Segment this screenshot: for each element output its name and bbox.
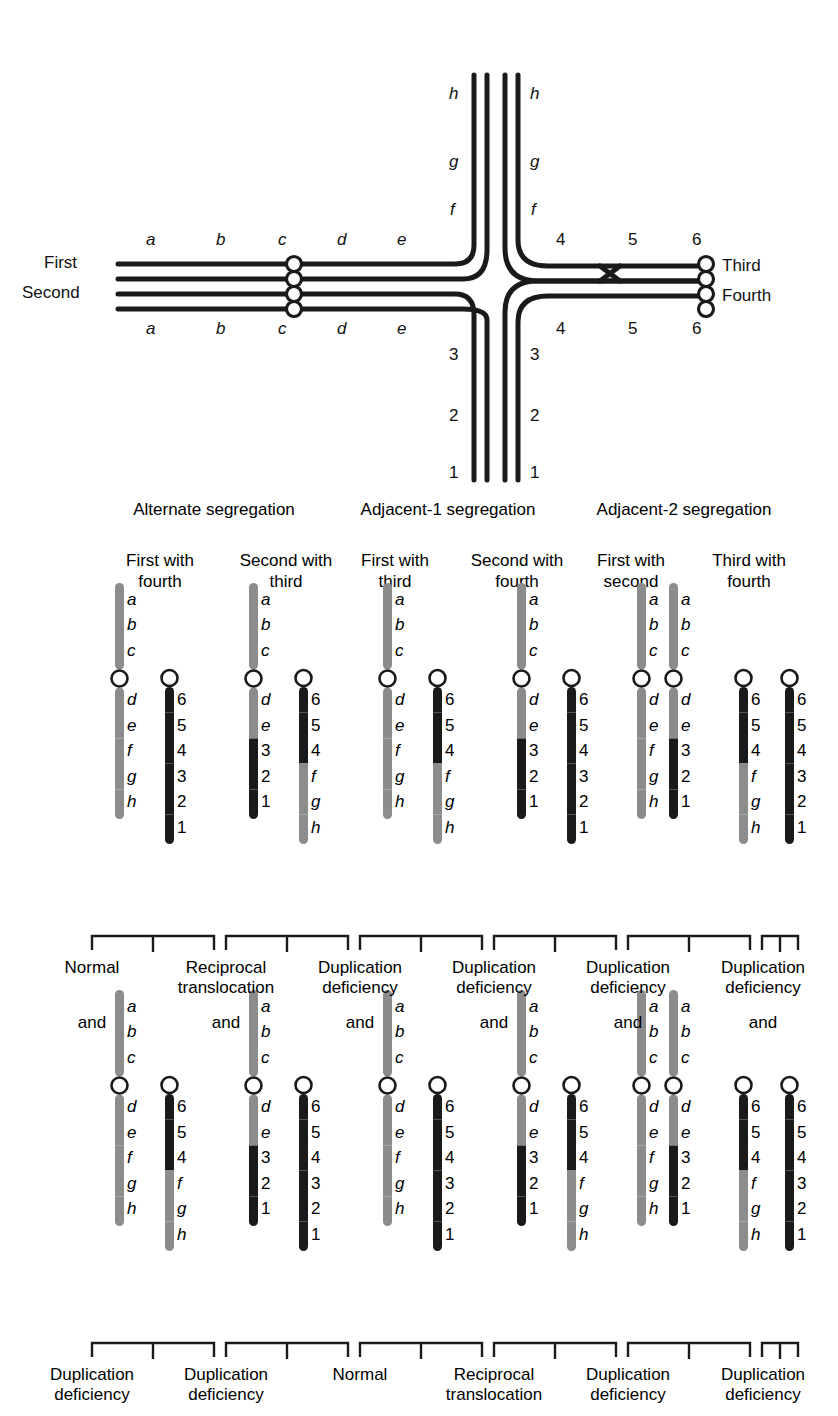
segment-label-row2-col1-0-q0: d <box>261 1098 270 1115</box>
segment-label-row2-col2-1-q3: 3 <box>445 1175 454 1192</box>
segment-label-row1-col1-0-p2: c <box>261 642 270 659</box>
outcome-row1-1-line1: Reciprocal <box>166 958 286 978</box>
cross-number-bottom-6: 6 <box>692 319 701 338</box>
segment-label-row1-col0-0-q4: h <box>127 793 136 810</box>
segment-label-row1-col0-1-q5: 1 <box>177 819 186 836</box>
cross-label-second: Second <box>22 283 80 302</box>
segment-label-row1-col3-0-q2: 3 <box>529 742 538 759</box>
segment-label-row2-col1-0-q3: 2 <box>261 1175 270 1192</box>
segment-label-row2-col4-0-q1: e <box>649 1124 658 1141</box>
segment-label-row1-col5-1-q5: 1 <box>797 819 806 836</box>
segment-label-row1-col4-0-p1: b <box>649 616 658 633</box>
segment-label-row2-col5-0-q1: 5 <box>751 1124 760 1141</box>
segment-label-row1-col1-1-q2: 4 <box>311 742 320 759</box>
segment-label-row2-col5-1-q2: 4 <box>797 1149 806 1166</box>
cross-number-down-left-1: 1 <box>449 463 458 482</box>
cross-letter-bottom-d: d <box>337 319 346 338</box>
segment-label-row1-col2-0-p2: c <box>395 642 404 659</box>
cross-label-first: First <box>44 253 77 272</box>
segment-label-row1-col1-1-q3: f <box>311 768 316 785</box>
segment-label-row2-col2-1-q2: 4 <box>445 1149 454 1166</box>
segment-label-row1-col3-0-q0: d <box>529 691 538 708</box>
outcome-row1-2-line1: Duplication <box>300 958 420 978</box>
telomere-fourth-sister <box>699 302 714 317</box>
section-title-alternate: Alternate segregation <box>96 500 332 520</box>
outcome-row2-0-line2: deficiency <box>32 1385 152 1405</box>
segment-label-row2-col0-0-p2: c <box>127 1049 136 1066</box>
segment-label-row2-col2-0-p2: c <box>395 1049 404 1066</box>
strand-third-sister <box>505 75 700 281</box>
segment-label-row2-col2-1-q0: 6 <box>445 1098 454 1115</box>
segment-label-row1-col4-0-q0: d <box>649 691 658 708</box>
column-header-3-line1: Second with <box>452 550 582 571</box>
segment-label-row2-col1-0-q1: e <box>261 1124 270 1141</box>
segment-label-row2-col5-0-q0: 6 <box>751 1098 760 1115</box>
segment-label-row2-col2-0-q3: g <box>395 1175 404 1192</box>
segment-label-row2-col2-0-q0: d <box>395 1098 404 1115</box>
outcome-row1-0-line1: Normal <box>32 958 152 978</box>
segment-label-row2-col4-0-q4: h <box>649 1200 658 1217</box>
segment-label-row1-col0-1-q2: 4 <box>177 742 186 759</box>
column-header-4-line1: First with <box>572 550 690 571</box>
outcome-row2-2-line1: Normal <box>300 1365 420 1385</box>
segment-label-row2-col2-1-q4: 2 <box>445 1200 454 1217</box>
outcome-row2-1-line1: Duplication <box>166 1365 286 1385</box>
segment-label-row1-col5-0-q4: g <box>751 793 760 810</box>
segment-label-row2-col4-1-q3: 2 <box>681 1175 690 1192</box>
outcome-row1-4: Duplication deficiency <box>568 958 688 998</box>
segment-label-row2-col0-1-q2: 4 <box>177 1149 186 1166</box>
cross-number-down-left-2: 2 <box>449 406 458 425</box>
segment-label-row2-col0-1-q5: h <box>177 1226 186 1243</box>
cross-number-down-right-1: 1 <box>530 463 539 482</box>
segment-label-row1-col1-0-q1: e <box>261 717 270 734</box>
segment-label-row2-col4-0-q3: g <box>649 1175 658 1192</box>
section-title-adjacent-2: Adjacent-2 segregation <box>562 500 806 520</box>
segment-label-row2-col4-0-q0: d <box>649 1098 658 1115</box>
column-header-5: Third with fourth <box>690 550 808 592</box>
outcome-row2-2: Normal <box>300 1365 420 1385</box>
segment-label-row1-col1-1-q0: 6 <box>311 691 320 708</box>
segment-label-row1-col1-0-p0: a <box>261 591 270 608</box>
segment-label-row2-col0-0-q0: d <box>127 1098 136 1115</box>
segment-label-row1-col2-0-q2: f <box>395 742 400 759</box>
outcome-row2-5-line2: deficiency <box>700 1385 826 1405</box>
segment-label-row2-col3-0-p0: a <box>529 998 538 1015</box>
strand-fourth-sister <box>505 281 700 480</box>
segment-label-row2-col3-1-q2: 4 <box>579 1149 588 1166</box>
column-header-0-line1: First with <box>100 550 220 571</box>
segment-label-row1-col2-0-p0: a <box>395 591 404 608</box>
outcome-row1-3: Duplication deficiency <box>434 958 554 998</box>
segment-label-row1-col0-0-p0: a <box>127 591 136 608</box>
segment-label-row2-col1-1-q0: 6 <box>311 1098 320 1115</box>
segment-label-row1-col4-0-q3: g <box>649 768 658 785</box>
segment-label-row2-col5-1-q4: 2 <box>797 1200 806 1217</box>
segment-label-row1-col3-1-q1: 5 <box>579 717 588 734</box>
segment-label-row2-col0-0-q3: g <box>127 1175 136 1192</box>
outcome-row2-1-line2: deficiency <box>166 1385 286 1405</box>
segment-label-row1-col0-1-q0: 6 <box>177 691 186 708</box>
segment-label-row2-col5-0-q2: 4 <box>751 1149 760 1166</box>
cross-letter-up-right-h: h <box>530 84 539 103</box>
segment-label-row2-col0-0-q4: h <box>127 1200 136 1217</box>
column-header-2-line1: First with <box>336 550 454 571</box>
segment-label-row2-col1-0-q2: 3 <box>261 1149 270 1166</box>
segment-label-row1-col2-0-q4: h <box>395 793 404 810</box>
segment-label-row1-col4-0-q1: e <box>649 717 658 734</box>
segment-label-row1-col2-0-q0: d <box>395 691 404 708</box>
segment-label-row1-col3-0-p0: a <box>529 591 538 608</box>
cross-number-down-right-2: 2 <box>530 406 539 425</box>
segment-label-row2-col2-0-q1: e <box>395 1124 404 1141</box>
strand-fourth <box>518 296 700 480</box>
strand-second <box>118 294 474 480</box>
segment-label-row1-col2-1-q3: f <box>445 768 450 785</box>
segment-label-row2-col1-0-q4: 1 <box>261 1200 270 1217</box>
segment-label-row1-col0-0-p2: c <box>127 642 136 659</box>
segment-label-row1-col1-1-q1: 5 <box>311 717 320 734</box>
segment-label-row2-col5-0-q4: g <box>751 1200 760 1217</box>
cross-letter-bottom-c: c <box>278 319 287 338</box>
outcome-row1-4-line2: deficiency <box>568 978 688 998</box>
segment-label-row1-col1-0-q4: 1 <box>261 793 270 810</box>
segment-label-row1-col3-1-q4: 2 <box>579 793 588 810</box>
segment-label-row1-col2-1-q0: 6 <box>445 691 454 708</box>
segment-label-row2-col3-0-q3: 2 <box>529 1175 538 1192</box>
